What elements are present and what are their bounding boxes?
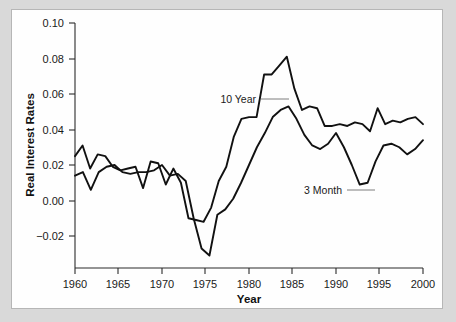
- x-axis-title: Year: [237, 293, 262, 305]
- y-tick-label: 0.02: [43, 159, 64, 171]
- annotation-label-3-month: 3 Month: [304, 184, 342, 196]
- annotation-3-month: 3 Month: [304, 184, 375, 196]
- x-tick-label: 1965: [106, 278, 130, 290]
- y-axis-tick-labels: 0.10 0.08 0.06 0.04 0.02 0.00 −0.02: [36, 17, 64, 242]
- y-tick-label: 0.06: [43, 88, 64, 100]
- x-tick-label: 1995: [367, 278, 391, 290]
- y-axis-title: Real Interest Rates: [24, 93, 36, 197]
- x-tick-label: 1970: [150, 278, 174, 290]
- cropped-header-text: [26, 0, 146, 3]
- y-tick-label: 0.00: [43, 195, 64, 207]
- x-tick-label: 1960: [63, 278, 87, 290]
- x-tick-label: 1990: [324, 278, 348, 290]
- y-axis-ticks: [69, 23, 75, 236]
- x-axis-ticks: [75, 268, 423, 274]
- real-interest-rates-chart: 0.10 0.08 0.06 0.04 0.02 0.00 −0.02 1960…: [12, 10, 442, 308]
- y-tick-label: 0.10: [43, 17, 64, 29]
- annotation-10-year: 10 Year: [220, 93, 289, 105]
- y-tick-label: 0.04: [43, 124, 64, 136]
- figure-panel: 0.10 0.08 0.06 0.04 0.02 0.00 −0.02 1960…: [11, 9, 443, 309]
- x-tick-label: 1985: [280, 278, 304, 290]
- annotation-label-10-year: 10 Year: [220, 93, 256, 105]
- series-line-10-year: [75, 57, 423, 222]
- x-tick-label: 1980: [237, 278, 261, 290]
- y-tick-label: 0.08: [43, 53, 64, 65]
- x-tick-label: 1975: [193, 278, 217, 290]
- x-axis-tick-labels: 1960 1965 1970 1975 1980 1985 1990 1995 …: [63, 278, 435, 290]
- y-tick-label: −0.02: [36, 230, 64, 242]
- x-tick-label: 2000: [411, 278, 435, 290]
